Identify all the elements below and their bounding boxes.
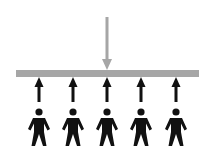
person-icon xyxy=(130,108,152,146)
person-icon xyxy=(96,108,118,146)
up-arrow-icon xyxy=(35,77,44,102)
up-arrow-icon xyxy=(137,77,146,102)
up-arrow-icon xyxy=(103,77,112,102)
people-group xyxy=(28,108,187,146)
diagram-canvas xyxy=(0,0,209,157)
person-icon xyxy=(62,108,84,146)
up-arrow-icon xyxy=(69,77,78,102)
up-arrow-icon xyxy=(172,77,181,102)
beam xyxy=(16,70,199,77)
person-icon xyxy=(165,108,187,146)
load-arrow-icon xyxy=(102,17,112,70)
person-icon xyxy=(28,108,50,146)
support-arrows xyxy=(35,77,181,102)
